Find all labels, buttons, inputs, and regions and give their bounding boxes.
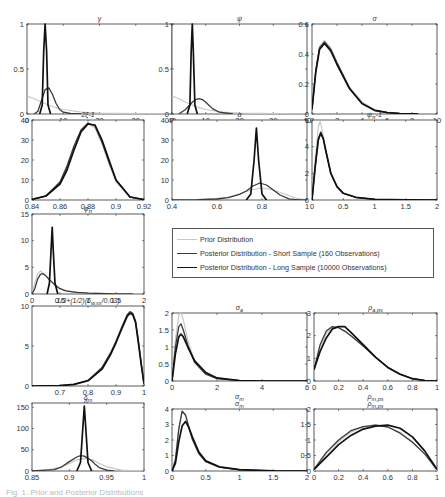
- axes-box: [27, 24, 172, 114]
- x-tick-label: 0.5: [338, 202, 348, 211]
- subplot-2: 024681000.20.40.6σ: [299, 15, 442, 125]
- y-tick-label: 30: [161, 136, 169, 145]
- subplot-title: ρa,ps: [367, 304, 383, 313]
- subplot-10: 0.850.90.951050100150δm: [16, 394, 146, 482]
- legend-item-long-sample: Posterior Distribution - Long Sample (10…: [177, 260, 429, 274]
- x-tick-label: 0.2: [333, 383, 343, 392]
- x-tick-label: 0.92: [137, 202, 152, 211]
- x-tick-label: 0.9: [111, 388, 121, 397]
- axes-box: [172, 313, 307, 381]
- y-tick-label: 0.5: [14, 65, 24, 74]
- x-tick-label: 0.8: [257, 202, 267, 211]
- y-tick-label: 0.5: [159, 360, 169, 369]
- x-tick-label: 4: [260, 383, 264, 392]
- x-tick-label: 0.4: [358, 383, 368, 392]
- x-tick-label: 0: [30, 296, 34, 305]
- x-tick-label: 0: [170, 383, 174, 392]
- x-tick-label: 0.95: [99, 473, 114, 482]
- y-tick-label: 5: [25, 263, 29, 272]
- y-tick-label: 1: [165, 451, 169, 460]
- subplot-title: 2ξ-1: [80, 111, 94, 119]
- y-tick-label: 15: [21, 210, 29, 219]
- subplot-3: 0.840.860.880.90.920102030402ξ-1: [21, 111, 152, 211]
- subplot-title: γ: [98, 15, 102, 23]
- y-tick-label: 10: [161, 176, 169, 185]
- x-tick-label: 1.5: [268, 473, 278, 482]
- x-tick-label: 0.6: [383, 383, 393, 392]
- y-tick-label: 0.5: [301, 451, 311, 460]
- y-tick-label: 0: [25, 196, 29, 205]
- long-sample-line-swatch-icon: [177, 267, 197, 268]
- x-tick-label: 1: [435, 383, 439, 392]
- y-tick-label: 1: [307, 436, 311, 445]
- y-tick-label: 30: [21, 136, 29, 145]
- legend-item-short-sample: Posterior Distribution - Short Sample (1…: [177, 246, 429, 260]
- subplot-title: σ: [372, 15, 377, 22]
- y-tick-label: 3: [307, 309, 311, 318]
- y-tick-label: 0: [165, 467, 169, 476]
- x-tick-label: 0.86: [53, 202, 68, 211]
- axes-box: [314, 313, 437, 381]
- x-tick-label: 0: [312, 473, 316, 482]
- y-tick-label: 1: [165, 20, 169, 29]
- x-tick-label: 0: [170, 473, 174, 482]
- x-tick-label: 0.6: [212, 202, 222, 211]
- y-tick-label: 4: [165, 405, 169, 414]
- subplot-0: 01020304000.51γ: [14, 15, 177, 125]
- y-tick-label: 10: [21, 236, 29, 245]
- x-tick-label: 0.9: [64, 473, 74, 482]
- y-tick-label: 1: [20, 20, 24, 29]
- legend-item-prior: Prior Distribution: [177, 232, 429, 246]
- y-tick-label: 2: [305, 169, 309, 178]
- short-sample-line-swatch-icon: [177, 253, 197, 254]
- y-tick-label: 0: [307, 467, 311, 476]
- y-tick-label: 2: [307, 405, 311, 414]
- y-tick-label: 0: [165, 377, 169, 386]
- y-tick-label: 1: [307, 354, 311, 363]
- x-tick-label: 0.8: [407, 383, 417, 392]
- x-tick-label: 0.7: [55, 388, 65, 397]
- x-tick-label: 0.4: [358, 473, 368, 482]
- legend-label: Posterior Distribution - Long Sample (10…: [200, 263, 387, 272]
- subplot-7: 0.70.80.9105101/3+(1/2)(δw,ss/0.03)δm: [21, 297, 146, 407]
- y-tick-label: 0: [25, 382, 29, 391]
- axes-box: [312, 120, 437, 200]
- y-tick-label: 10: [21, 302, 29, 311]
- axes-box: [314, 409, 437, 471]
- x-tick-label: 0: [310, 202, 314, 211]
- x-tick-label: 0.8: [407, 473, 417, 482]
- y-tick-label: 20: [21, 156, 29, 165]
- subplot-1: 01020304000.51ψ: [159, 15, 312, 125]
- subplot-6: 00.511.52051015φπ: [21, 205, 146, 305]
- x-tick-label: 0.6: [383, 473, 393, 482]
- x-tick-label: 1: [372, 202, 376, 211]
- y-tick-label: 1.5: [301, 420, 311, 429]
- axes-box: [172, 120, 307, 200]
- y-tick-label: 100: [16, 424, 29, 433]
- y-tick-label: 20: [161, 156, 169, 165]
- x-tick-label: 2: [435, 202, 439, 211]
- x-tick-label: 1: [237, 473, 241, 482]
- x-tick-label: 2: [142, 296, 146, 305]
- subplot-5: 00.511.520246ψπ-1: [305, 111, 439, 211]
- subplot-8: 024600.511.52σaσm: [159, 304, 310, 402]
- figure-caption: Fig. 1. Prior and Posterior Distribution…: [6, 488, 143, 497]
- y-tick-label: 0.4: [299, 50, 309, 59]
- prior-line-swatch-icon: [177, 239, 197, 240]
- x-tick-label: 0.9: [111, 202, 121, 211]
- y-tick-label: 2: [165, 309, 169, 318]
- y-tick-label: 10: [21, 176, 29, 185]
- legend-label: Prior Distribution: [200, 235, 253, 244]
- y-tick-label: 3: [165, 420, 169, 429]
- y-tick-label: 0: [25, 290, 29, 299]
- y-tick-label: 0.5: [159, 65, 169, 74]
- y-tick-label: 0: [165, 196, 169, 205]
- x-tick-label: 1: [142, 473, 146, 482]
- y-tick-label: 4: [305, 142, 309, 151]
- subplot-4: 0.40.60.81010203040α: [161, 111, 309, 211]
- x-tick-label: 0.5: [201, 473, 211, 482]
- subplot-title: σa: [236, 304, 243, 313]
- y-tick-label: 2: [165, 436, 169, 445]
- legend: Prior Distribution Posterior Distributio…: [172, 228, 434, 278]
- y-tick-label: 0.2: [299, 80, 309, 89]
